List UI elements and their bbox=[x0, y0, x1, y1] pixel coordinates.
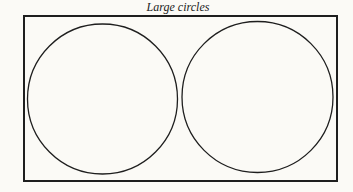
bounding-rectangle bbox=[24, 16, 337, 181]
right-large-circle bbox=[182, 22, 333, 173]
left-large-circle bbox=[28, 24, 178, 174]
diagram bbox=[0, 0, 353, 192]
figure-canvas: Large circles bbox=[0, 0, 353, 192]
